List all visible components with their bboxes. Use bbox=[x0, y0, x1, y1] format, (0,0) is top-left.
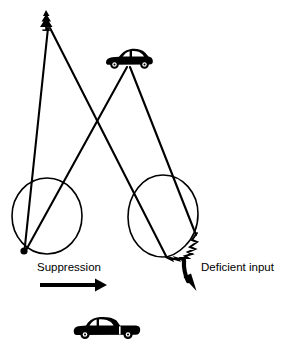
suppression-arrow bbox=[40, 279, 107, 292]
lower-car-wheel-rear-center bbox=[127, 334, 129, 336]
left-eye-circle bbox=[12, 178, 82, 254]
lower-car-wheel-front-center bbox=[84, 334, 86, 336]
figure-root: Suppression Deficient input bbox=[0, 0, 283, 342]
suppression-arrow-head bbox=[95, 279, 107, 292]
sightline-car-to-right-eye bbox=[130, 67, 196, 235]
upper-car-wheel-front-center bbox=[114, 64, 116, 66]
deficient-input-label: Deficient input bbox=[201, 261, 274, 274]
diagram-canvas bbox=[0, 0, 283, 342]
deficient-input-arrow bbox=[184, 260, 197, 291]
upper-car-icon bbox=[106, 49, 153, 69]
deficient-arrow-head bbox=[184, 274, 197, 292]
suppression-label: Suppression bbox=[37, 261, 101, 274]
lower-car-icon bbox=[74, 317, 140, 339]
upper-car-wheel-rear-center bbox=[144, 64, 146, 66]
fovea-dot bbox=[20, 247, 27, 254]
lower-car-bed-divider bbox=[119, 326, 121, 334]
